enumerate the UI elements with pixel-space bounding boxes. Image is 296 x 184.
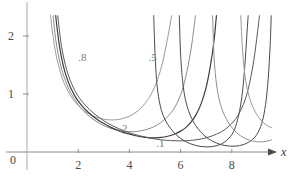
y-tick-label-2: 2 [8, 30, 14, 42]
curve-label-p2: .2 [119, 123, 127, 134]
plot-canvas [0, 0, 296, 184]
x-tick-label-2: 2 [75, 159, 81, 171]
x-tick-label-8: 8 [229, 159, 235, 171]
plot-figure: 0 2468 12 .8.5.2.1 x [0, 0, 296, 184]
curve-label-p1: .1 [156, 138, 164, 149]
x-tick-label-6: 6 [178, 159, 184, 171]
x-axis-name-label: x [281, 146, 286, 158]
axis-group [6, 2, 277, 170]
tick-marks [23, 36, 232, 153]
origin-label: 0 [10, 154, 16, 166]
curve-resonance-spike-d [241, 16, 272, 128]
curve-.5 [53, 16, 195, 132]
curve-label-p8: .8 [78, 52, 86, 63]
x-tick-label-4: 4 [126, 159, 132, 171]
y-tick-label-1: 1 [8, 88, 14, 100]
curve-.1 [58, 16, 260, 141]
x-axis-arrow-icon [268, 148, 277, 155]
curve-.8 [51, 16, 172, 120]
curve-label-p5: .5 [149, 52, 157, 63]
curve-group [51, 16, 272, 147]
